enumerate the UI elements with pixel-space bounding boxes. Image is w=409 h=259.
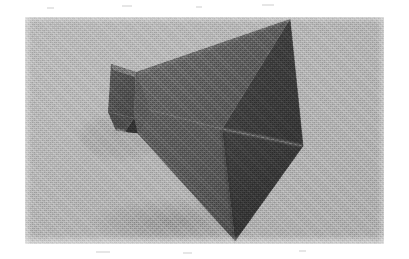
scan-speckle [96, 251, 110, 253]
scan-speckle [122, 5, 132, 7]
scan-speckle [183, 252, 192, 254]
scan-speckle [196, 6, 202, 8]
photo-scene [25, 17, 384, 244]
photo-frame [25, 17, 384, 244]
scan-speckle [47, 7, 54, 9]
scan-speckle [299, 250, 306, 252]
page-root [0, 0, 409, 259]
scan-speckle [262, 4, 274, 6]
horn-antenna-illustration [25, 17, 384, 244]
